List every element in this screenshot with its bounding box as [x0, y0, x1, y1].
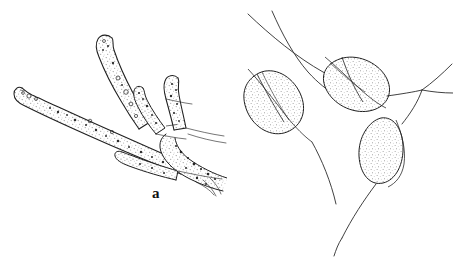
left-lenticular-body: [238, 58, 312, 142]
panel-a-label: a: [152, 186, 160, 201]
panel-a-drawing: [0, 0, 227, 264]
spore-bodies-group-b: [238, 11, 453, 256]
upper-right-lenticular-body: [316, 48, 398, 118]
panel-b: b: [226, 0, 453, 264]
hyphae-group-a: [8, 25, 227, 196]
figure-root: a: [0, 0, 453, 264]
panel-a: a: [0, 0, 227, 264]
lower-ovoid-body: [352, 112, 410, 190]
panel-b-drawing: [226, 0, 453, 264]
